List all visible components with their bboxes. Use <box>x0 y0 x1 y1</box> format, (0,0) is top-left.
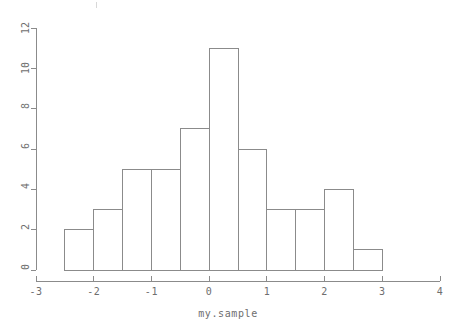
y-tick-label-8: 8 <box>20 103 31 109</box>
y-tick-label-0-wrap: 0 <box>0 264 22 276</box>
y-tick-label-12-wrap: 12 <box>0 22 22 34</box>
y-tick-label-10-wrap: 10 <box>0 62 22 74</box>
histogram-bar <box>65 230 94 270</box>
x-tick-label-neg3: -3 <box>29 286 42 297</box>
histogram-bar <box>325 189 354 270</box>
plot-canvas <box>0 0 456 336</box>
x-tick-label-3: 3 <box>379 286 386 297</box>
x-tick-label-neg2: -2 <box>87 286 100 297</box>
histogram-bar <box>267 210 296 271</box>
y-axis <box>31 28 36 270</box>
histogram-bar <box>238 149 267 270</box>
y-tick-label-0: 0 <box>20 264 31 270</box>
x-tick-label-0: 0 <box>206 286 213 297</box>
histogram-bars <box>65 48 382 270</box>
x-axis <box>36 276 440 281</box>
y-tick-label-12: 12 <box>20 22 31 34</box>
x-tick-label-2: 2 <box>321 286 328 297</box>
histogram-bar <box>209 48 238 270</box>
y-tick-label-8-wrap: 8 <box>0 103 22 115</box>
histogram-bar <box>151 169 180 270</box>
plot-area: -3 -2 -1 0 1 2 3 4 0 2 4 6 8 10 12 my.sa… <box>0 0 456 336</box>
x-tick-label-neg1: -1 <box>145 286 158 297</box>
y-tick-label-4: 4 <box>20 183 31 189</box>
histogram-bar <box>94 210 123 271</box>
y-tick-label-6-wrap: 6 <box>0 143 22 155</box>
histogram-bar <box>296 210 325 271</box>
histogram-bar <box>180 129 209 270</box>
x-axis-title: my.sample <box>0 308 456 319</box>
histogram-bar <box>123 169 152 270</box>
histogram-figure: -3 -2 -1 0 1 2 3 4 0 2 4 6 8 10 12 my.sa… <box>0 0 456 336</box>
y-tick-label-2-wrap: 2 <box>0 224 22 236</box>
y-tick-label-6: 6 <box>20 143 31 149</box>
y-tick-label-4-wrap: 4 <box>0 183 22 195</box>
y-tick-label-10: 10 <box>20 62 31 74</box>
x-tick-label-4: 4 <box>437 286 444 297</box>
histogram-bar <box>353 250 382 270</box>
y-tick-label-2: 2 <box>20 224 31 230</box>
x-tick-label-1: 1 <box>264 286 271 297</box>
